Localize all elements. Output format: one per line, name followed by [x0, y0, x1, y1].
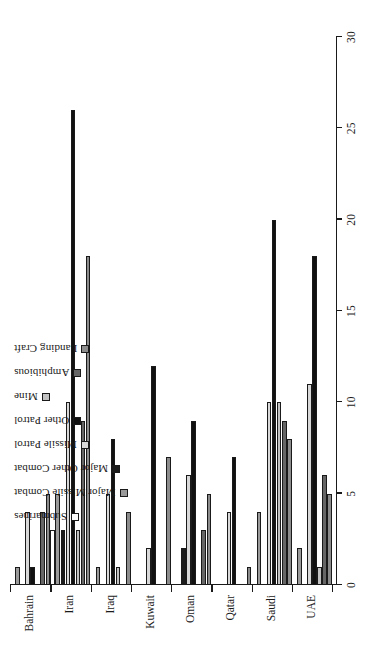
bar — [282, 421, 287, 585]
value-axis-tick — [336, 401, 342, 402]
category-axis-tick — [10, 585, 11, 592]
bar-chart: 051015202530 BahrainIranIraqKuwaitOmanQa… — [0, 0, 387, 647]
legend-item: Other Patrol — [14, 409, 86, 433]
bar — [247, 567, 252, 585]
legend-label: Submarines — [14, 511, 67, 523]
category-axis-label: Kuwait — [145, 595, 157, 647]
legend-label: Major Other Combat — [14, 463, 108, 475]
value-axis-tick — [336, 36, 342, 37]
legend-swatch — [120, 489, 128, 497]
value-axis-tick — [336, 127, 342, 128]
bar — [151, 366, 156, 585]
legend-item: Major Missile Combat — [14, 481, 133, 505]
value-axis-tick — [336, 218, 342, 219]
category-axis-label: Iran — [64, 595, 76, 647]
value-axis-tick-label: 30 — [345, 17, 357, 57]
legend-swatch — [73, 417, 81, 425]
category-axis-tick — [131, 585, 132, 592]
value-axis-tick-label: 20 — [345, 200, 357, 240]
legend-swatch — [42, 393, 50, 401]
legend-item: Landing Craft — [14, 337, 94, 361]
bar — [232, 457, 237, 585]
legend-item: Mine — [14, 385, 55, 409]
bar — [15, 567, 20, 585]
value-axis-tick-label: 10 — [345, 382, 357, 422]
chart-figure-wrapper: 051015202530 BahrainIranIraqKuwaitOmanQa… — [0, 0, 387, 647]
category-axis-label: Oman — [185, 595, 197, 647]
bar — [191, 421, 196, 585]
bar — [116, 567, 121, 585]
bar — [312, 256, 317, 585]
bar — [227, 512, 232, 585]
legend-label: Mine — [14, 391, 38, 403]
bar — [96, 567, 101, 585]
bar — [327, 494, 332, 585]
legend-label: Major Missile Combat — [14, 487, 116, 499]
category-axis-tick — [211, 585, 212, 592]
bar — [277, 402, 282, 585]
legend-label: Other Patrol — [14, 415, 69, 427]
bar — [297, 548, 302, 585]
legend-item: Major Other Combat — [14, 457, 125, 481]
bar — [317, 567, 322, 585]
bar — [257, 512, 262, 585]
legend-swatch — [81, 345, 89, 353]
category-axis-label: Saudi — [266, 595, 278, 647]
value-axis-tick-label: 25 — [345, 108, 357, 148]
value-axis-tick-label: 15 — [345, 291, 357, 331]
bar — [166, 457, 171, 585]
bar — [181, 548, 186, 585]
category-axis-label: Bahrain — [24, 595, 36, 647]
bar — [186, 475, 191, 585]
legend-swatch — [73, 369, 81, 377]
legend-item: Missile Patrol — [14, 433, 94, 457]
legend-item: Submarines — [14, 505, 84, 529]
value-axis-tick — [336, 310, 342, 311]
category-axis-label: UAE — [306, 595, 318, 647]
value-axis-tick-label: 0 — [345, 565, 357, 605]
bar — [307, 384, 312, 585]
legend-swatch — [112, 465, 120, 473]
legend-label: Landing Craft — [14, 343, 77, 355]
legend-label: Missile Patrol — [14, 439, 77, 451]
value-axis-tick — [336, 584, 342, 585]
legend-item: Amphibious — [14, 361, 86, 385]
bar — [30, 567, 35, 585]
category-axis-tick — [171, 585, 172, 592]
bar — [61, 530, 66, 585]
bar — [267, 402, 272, 585]
bar — [287, 439, 292, 585]
bar — [207, 494, 212, 585]
value-axis-tick — [336, 492, 342, 493]
category-axis-tick — [332, 585, 333, 592]
legend-label: Amphibious — [14, 367, 69, 379]
chart-legend: SubmarinesMajor Missile CombatMajor Othe… — [14, 337, 133, 529]
category-axis-tick — [292, 585, 293, 592]
category-axis-label: Iraq — [105, 595, 117, 647]
category-axis-tick — [91, 585, 92, 592]
bar — [50, 530, 55, 585]
legend-swatch — [81, 441, 89, 449]
category-axis-tick — [50, 585, 51, 592]
bar — [201, 530, 206, 585]
value-axis-tick-label: 5 — [345, 474, 357, 514]
bar — [272, 220, 277, 585]
bar — [322, 475, 327, 585]
bar — [146, 548, 151, 585]
legend-swatch — [71, 513, 79, 521]
category-axis-tick — [252, 585, 253, 592]
category-axis-label: Qatar — [225, 595, 237, 647]
bar — [76, 530, 81, 585]
